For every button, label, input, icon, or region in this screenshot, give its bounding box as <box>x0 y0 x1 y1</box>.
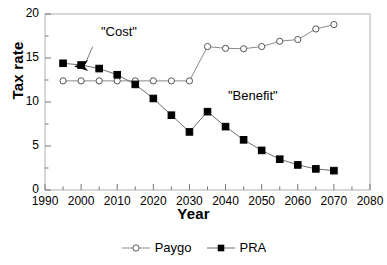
y-tick-label: 20 <box>13 6 39 20</box>
data-point-paygo <box>204 43 210 49</box>
data-point-paygo <box>168 78 174 84</box>
data-point-paygo <box>277 38 283 44</box>
x-tick-label: 2060 <box>278 194 318 208</box>
legend-marker-open-circle <box>121 241 151 255</box>
data-point-pra <box>96 65 103 72</box>
legend-label: Paygo <box>155 240 192 255</box>
data-point-paygo <box>114 78 120 84</box>
chart-container: Tax rate Year "Cost" "Benefit" PaygoPRA … <box>0 0 387 265</box>
data-point-pra <box>294 162 301 169</box>
data-point-paygo <box>78 78 84 84</box>
x-tick-label: 2020 <box>133 194 173 208</box>
y-tick-label: 5 <box>13 138 39 152</box>
data-point-pra <box>222 123 229 130</box>
legend-item-paygo[interactable]: Paygo <box>121 240 192 255</box>
data-point-pra <box>331 167 338 174</box>
x-tick-label: 2070 <box>314 194 354 208</box>
y-tick-label: 0 <box>13 182 39 196</box>
x-tick-label: 2010 <box>97 194 137 208</box>
plot-frame <box>45 14 370 190</box>
data-point-pra <box>240 137 247 144</box>
data-point-pra <box>60 60 67 67</box>
data-point-paygo <box>186 78 192 84</box>
x-tick-label: 2030 <box>169 194 209 208</box>
data-point-paygo <box>295 36 301 42</box>
data-point-pra <box>186 129 193 136</box>
data-point-paygo <box>96 78 102 84</box>
x-tick-label: 2040 <box>206 194 246 208</box>
data-point-pra <box>114 71 121 78</box>
x-tick-label: 2000 <box>61 194 101 208</box>
data-point-paygo <box>241 46 247 52</box>
data-point-pra <box>204 108 211 115</box>
y-tick-label: 10 <box>13 94 39 108</box>
legend-marker-filled-square <box>206 241 236 255</box>
data-point-pra <box>150 95 157 102</box>
data-point-paygo <box>60 78 66 84</box>
x-tick-label: 1990 <box>25 194 65 208</box>
plot-area <box>0 0 387 265</box>
data-point-paygo <box>150 78 156 84</box>
legend-label: PRA <box>240 240 267 255</box>
data-point-paygo <box>222 45 228 51</box>
annotation-benefit: "Benefit" <box>228 88 278 103</box>
data-point-pra <box>258 147 265 154</box>
data-point-pra <box>132 81 139 88</box>
data-point-pra <box>276 156 283 163</box>
data-point-paygo <box>259 43 265 49</box>
data-point-paygo <box>331 21 337 27</box>
annotation-cost: "Cost" <box>101 24 137 39</box>
y-tick-label: 15 <box>13 50 39 64</box>
series-pra <box>60 60 337 174</box>
data-point-paygo <box>313 26 319 32</box>
x-tick-label: 2050 <box>242 194 282 208</box>
x-tick-label: 2080 <box>350 194 387 208</box>
legend-item-pra[interactable]: PRA <box>206 240 267 255</box>
data-point-pra <box>313 166 320 173</box>
chart-legend: PaygoPRA <box>0 240 387 255</box>
data-point-pra <box>168 112 175 119</box>
